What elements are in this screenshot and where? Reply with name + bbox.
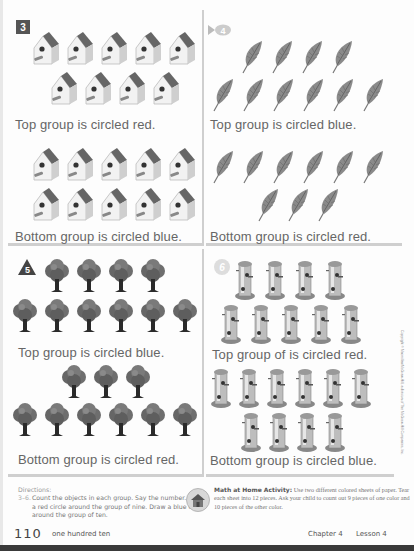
bottom-group-caption: Bottom group is circled blue. bbox=[210, 453, 377, 468]
tree-icon bbox=[125, 365, 151, 399]
tree-icon bbox=[44, 299, 70, 333]
birdhouse-icon bbox=[132, 188, 162, 224]
top-group-row-1 bbox=[30, 32, 196, 68]
svg-text:5: 5 bbox=[25, 265, 30, 275]
bird-feeder-icon bbox=[234, 259, 256, 301]
birdhouse-icon bbox=[64, 148, 94, 184]
tree-icon bbox=[108, 403, 134, 437]
top-group-row-2 bbox=[48, 72, 180, 108]
birdhouse-icon bbox=[166, 32, 196, 68]
copyright-notice: Copyright © Macmillan/McGraw-Hill, a div… bbox=[396, 330, 406, 500]
lesson-label: Lesson 4 bbox=[356, 530, 387, 538]
tree-icon bbox=[93, 365, 119, 399]
feather-icon bbox=[361, 150, 385, 184]
feather-icon bbox=[241, 78, 265, 112]
birdhouse-icon bbox=[98, 148, 128, 184]
birdhouse-icon bbox=[132, 148, 162, 184]
birdhouse-icon bbox=[30, 148, 60, 184]
feather-icon bbox=[361, 78, 385, 112]
directions-range: 3–6. bbox=[18, 494, 32, 519]
problem-6-panel: 6 bbox=[206, 249, 394, 477]
house-icon bbox=[186, 488, 210, 512]
bird-feeder-icon bbox=[210, 367, 232, 409]
directions: Directions: 3–6. Count the objects in ea… bbox=[18, 486, 208, 520]
tree-icon bbox=[12, 403, 38, 437]
directions-text: Count the objects in each group. Say the… bbox=[32, 494, 208, 519]
problem-number-badge: 6 bbox=[214, 259, 230, 275]
feather-icon bbox=[301, 150, 325, 184]
top-group-row-1 bbox=[240, 40, 354, 74]
feather-icon bbox=[240, 40, 264, 74]
feather-icon bbox=[300, 40, 324, 74]
bird-feeder-icon bbox=[250, 303, 272, 345]
top-group-row-2 bbox=[211, 78, 385, 112]
top-group-caption: Top group is circled blue. bbox=[210, 117, 356, 132]
bird-feeder-icon bbox=[350, 367, 372, 409]
bottom-group-row-2 bbox=[256, 188, 340, 222]
bird-feeder-icon bbox=[294, 367, 316, 409]
tree-icon bbox=[140, 403, 166, 437]
top-group-caption: Top group of is circled red. bbox=[212, 347, 367, 362]
bottom-group-row-2 bbox=[12, 403, 198, 437]
bottom-group-row-1 bbox=[210, 367, 372, 409]
birdhouse-icon bbox=[166, 148, 196, 184]
fish-badge-icon: 4 bbox=[208, 24, 232, 36]
tree-icon bbox=[108, 299, 134, 333]
tree-icon bbox=[172, 403, 198, 437]
tree-icon bbox=[76, 299, 102, 333]
feather-icon bbox=[286, 188, 310, 222]
bottom-group-row-1 bbox=[30, 148, 196, 184]
feather-icon bbox=[316, 188, 340, 222]
birdhouse-icon bbox=[64, 188, 94, 224]
birdhouse-icon bbox=[132, 32, 162, 68]
copyright-text: Copyright © Macmillan/McGraw-Hill, a div… bbox=[400, 330, 404, 455]
top-group-row-2 bbox=[12, 299, 198, 333]
bird-feeder-icon bbox=[238, 367, 260, 409]
birdhouse-icon bbox=[166, 188, 196, 224]
tree-icon bbox=[76, 403, 102, 437]
problem-3-panel: 3 bbox=[8, 10, 204, 246]
bird-feeder-icon bbox=[266, 367, 288, 409]
chapter-label: Chapter 4 bbox=[308, 530, 343, 538]
problem-number-badge: 5 bbox=[18, 259, 36, 275]
problem-number-badge: 4 bbox=[208, 24, 232, 36]
birdhouse-icon bbox=[150, 72, 180, 108]
feather-icon bbox=[241, 150, 265, 184]
bird-feeder-icon bbox=[310, 303, 332, 345]
feather-icon bbox=[256, 188, 280, 222]
feather-icon bbox=[211, 78, 235, 112]
problem-4-panel: 4 bbox=[206, 10, 402, 246]
page-number-words: one hundred ten bbox=[52, 530, 110, 538]
worksheet-page: 3 bbox=[0, 0, 414, 551]
top-group-row-1 bbox=[234, 259, 346, 301]
bird-feeder-icon bbox=[322, 367, 344, 409]
page-bottom-edge bbox=[0, 545, 414, 551]
bottom-group-row-2 bbox=[240, 411, 346, 453]
tree-icon bbox=[140, 299, 166, 333]
feather-icon bbox=[330, 40, 354, 74]
feather-icon bbox=[331, 150, 355, 184]
tree-icon bbox=[12, 299, 38, 333]
bird-feeder-icon bbox=[280, 303, 302, 345]
bottom-group-row-1 bbox=[61, 365, 151, 399]
bird-feeder-icon bbox=[220, 303, 242, 345]
page-edge bbox=[0, 0, 3, 545]
tree-icon bbox=[108, 259, 134, 293]
top-group-caption: Top group is circled blue. bbox=[18, 345, 164, 360]
bird-feeder-icon bbox=[240, 411, 262, 453]
feather-icon bbox=[271, 150, 295, 184]
bird-feeder-icon bbox=[340, 303, 362, 345]
birdhouse-icon bbox=[30, 32, 60, 68]
top-group-row-1 bbox=[44, 259, 166, 293]
birdhouse-icon bbox=[116, 72, 146, 108]
tree-icon bbox=[76, 259, 102, 293]
tree-icon bbox=[140, 259, 166, 293]
bottom-group-caption: Bottom group is circled red. bbox=[210, 229, 371, 244]
bottom-group-row-2 bbox=[30, 188, 196, 224]
bottom-group-caption: Bottom group is circled red. bbox=[18, 452, 179, 467]
feather-icon bbox=[270, 40, 294, 74]
problem-number-badge: 3 bbox=[16, 20, 30, 34]
triangle-badge-icon: 5 bbox=[18, 259, 36, 275]
bird-feeder-icon bbox=[264, 259, 286, 301]
bottom-group-row-1 bbox=[211, 150, 385, 184]
